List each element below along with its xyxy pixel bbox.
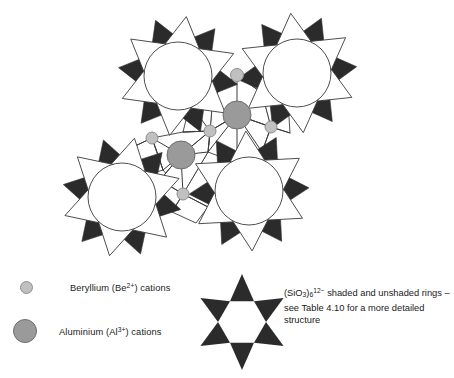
legend-beryllium-suffix: ) cations [134,283,170,293]
hexagram-point-2 [254,298,284,322]
legend-beryllium-prefix: Beryllium (Be [70,283,127,293]
be-3-beryllium-cation [265,121,277,133]
hexagram-point-3 [254,322,284,346]
aluminium-swatch-icon [13,319,37,343]
al-1-aluminium-cation [223,101,251,129]
ring-formula-charge: 12− [313,287,324,294]
hexagram-point-5 [200,322,230,346]
ring-formula-prefix: (SiO [284,288,303,298]
ring-bottom-right-cavity [215,157,283,225]
ring-caption-line1: shaded and unshaded [325,288,420,298]
hexagram-point-4 [230,343,254,370]
hexagram-star-of-david-icon [190,270,294,374]
ring-top-left-cavity [144,42,212,110]
ring-caption: (SiO3)612− shaded and unshaded rings – s… [284,285,452,327]
be-2-beryllium-cation [204,125,216,137]
ring-top-right-cavity [263,39,331,107]
al-2-aluminium-cation [167,141,195,169]
ring-bottom-left-cavity [88,163,156,231]
legend-item-aluminium: Aluminium (Al3+) cations [13,319,162,343]
legend-label-aluminium: Aluminium (Al3+) cations [59,326,162,337]
legend-aluminium-suffix: ) cations [125,326,161,336]
legend-item-beryllium: Beryllium (Be2+) cations [20,281,170,294]
legend-aluminium-prefix: Aluminium (Al [59,326,118,336]
be-1-beryllium-cation [231,69,244,82]
beryllium-swatch-icon [20,281,33,294]
hexagram-point-1 [230,274,254,301]
beryl-structure-figure: Beryllium (Be2+) cations Aluminium (Al3+… [0,0,454,378]
legend-label-beryllium: Beryllium (Be2+) cations [70,282,170,293]
hexagram-point-6 [200,298,230,322]
be-4-beryllium-cation [146,132,158,144]
be-5-beryllium-cation [177,188,189,200]
